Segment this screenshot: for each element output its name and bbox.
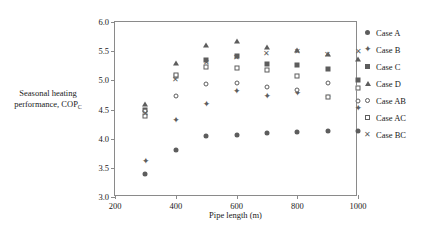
- data-point: [325, 128, 330, 133]
- legend-item-case-ab[interactable]: Case AB: [362, 92, 432, 109]
- cross-marker-icon: ✕: [172, 76, 179, 83]
- x-axis-title: Pipe length (m): [114, 210, 357, 220]
- legend-label: Case BC: [376, 130, 406, 140]
- filled-triangle-marker-icon: [355, 57, 361, 62]
- open-circle-marker-icon: [365, 98, 370, 103]
- data-point: [325, 67, 330, 72]
- open-circle-marker-icon: [295, 88, 300, 93]
- open-square-marker-icon: [264, 67, 269, 72]
- legend-item-case-c[interactable]: Case C: [362, 58, 432, 75]
- y-axis-tick: [111, 22, 115, 23]
- cross-marker-icon: ✕: [355, 48, 362, 55]
- star-marker-icon: ✦: [364, 46, 371, 53]
- y-axis-tick-label: 5.0: [98, 75, 109, 85]
- legend-marker: [362, 98, 373, 103]
- filled-square-marker-icon: [356, 77, 361, 82]
- open-circle-marker-icon: [264, 84, 269, 89]
- cross-marker-icon: ✕: [324, 51, 331, 58]
- filled-circle-marker-icon: [143, 171, 148, 176]
- data-point: [173, 60, 179, 65]
- filled-circle-marker-icon: [325, 128, 330, 133]
- data-point: [264, 62, 269, 67]
- filled-circle-marker-icon: [365, 30, 370, 35]
- legend-label: Case AB: [376, 96, 406, 106]
- legend-item-case-a[interactable]: Case A: [362, 24, 432, 41]
- data-point: ✕: [203, 58, 210, 65]
- data-point: [325, 94, 330, 99]
- data-point: ✦: [263, 92, 270, 99]
- cross-marker-icon: ✕: [203, 58, 210, 65]
- legend-item-case-ac[interactable]: Case AC: [362, 109, 432, 126]
- open-square-marker-icon: [356, 85, 361, 90]
- legend-label: Case A: [376, 28, 400, 38]
- y-axis-tick-label: 3.0: [98, 192, 109, 202]
- legend-marker: [362, 81, 373, 86]
- data-point: [173, 147, 178, 152]
- filled-square-marker-icon: [264, 62, 269, 67]
- filled-triangle-marker-icon: [173, 60, 179, 65]
- open-circle-marker-icon: [356, 98, 361, 103]
- legend-marker: ✕: [362, 131, 373, 138]
- data-point: ✕: [142, 110, 149, 117]
- data-point: ✕: [294, 48, 301, 55]
- data-point: [173, 93, 178, 98]
- filled-circle-marker-icon: [204, 133, 209, 138]
- x-axis-tick: [176, 195, 177, 199]
- filled-triangle-marker-icon: [234, 38, 240, 43]
- filled-square-marker-icon: [325, 67, 330, 72]
- filled-square-marker-icon: [295, 63, 300, 68]
- star-marker-icon: ✦: [142, 157, 149, 164]
- data-point: ✕: [324, 51, 331, 58]
- x-axis-tick: [358, 195, 359, 199]
- legend-marker: [362, 30, 373, 35]
- data-point: ✦: [203, 101, 210, 108]
- data-point: ✕: [263, 49, 270, 56]
- data-point: ✦: [233, 87, 240, 94]
- y-axis-tick-label: 4.0: [98, 134, 109, 144]
- open-circle-marker-icon: [173, 93, 178, 98]
- cross-marker-icon: ✕: [364, 131, 371, 138]
- data-point: [143, 171, 148, 176]
- y-axis-tick-label: 6.0: [98, 17, 109, 27]
- data-point: [295, 129, 300, 134]
- star-marker-icon: ✦: [263, 92, 270, 99]
- data-point: [355, 57, 361, 62]
- data-point: [234, 133, 239, 138]
- data-point: [264, 84, 269, 89]
- y-axis-tick: [111, 110, 115, 111]
- data-point: [356, 98, 361, 103]
- cross-marker-icon: ✕: [294, 48, 301, 55]
- x-axis-tick: [115, 195, 116, 199]
- legend-item-case-b[interactable]: ✦Case B: [362, 41, 432, 58]
- data-point: [295, 88, 300, 93]
- cross-marker-icon: ✕: [263, 49, 270, 56]
- filled-circle-marker-icon: [234, 133, 239, 138]
- data-point: [356, 128, 361, 133]
- filled-square-marker-icon: [365, 64, 370, 69]
- data-point: ✦: [355, 104, 362, 111]
- x-axis-tick: [297, 195, 298, 199]
- filled-circle-marker-icon: [356, 128, 361, 133]
- data-point: ✕: [355, 48, 362, 55]
- legend-label: Case AC: [376, 113, 406, 123]
- data-point: ✕: [172, 76, 179, 83]
- star-marker-icon: ✦: [172, 117, 179, 124]
- data-point: [142, 101, 148, 106]
- y-axis-tick: [111, 80, 115, 81]
- filled-triangle-marker-icon: [142, 101, 148, 106]
- legend-item-case-d[interactable]: Case D: [362, 75, 432, 92]
- legend-label: Case C: [376, 62, 400, 72]
- legend-label: Case B: [376, 45, 400, 55]
- x-axis-tick: [237, 195, 238, 199]
- legend-marker: ✦: [362, 46, 373, 53]
- open-square-marker-icon: [325, 94, 330, 99]
- legend-item-case-bc[interactable]: ✕Case BC: [362, 126, 432, 143]
- filled-triangle-marker-icon: [203, 43, 209, 48]
- open-square-marker-icon: [295, 73, 300, 78]
- open-circle-marker-icon: [325, 81, 330, 86]
- open-square-marker-icon: [234, 65, 239, 70]
- legend-marker: [362, 115, 373, 120]
- data-point: [295, 63, 300, 68]
- chart-legend: Case A✦Case BCase CCase DCase ABCase AC✕…: [362, 24, 432, 143]
- y-axis-tick: [111, 168, 115, 169]
